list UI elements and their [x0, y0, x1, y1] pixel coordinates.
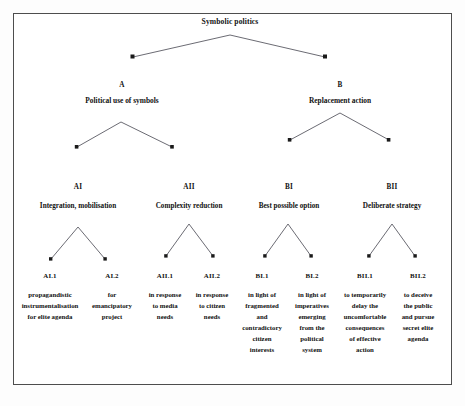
leaf-code-bi2: BI.2 — [305, 272, 318, 279]
node-name-a: Political use of symbols — [85, 97, 158, 105]
leaf-text-aii1: in responseto medianeeds — [149, 289, 182, 322]
node-code-b: B — [338, 82, 343, 90]
node-name-bii: Deliberate strategy — [363, 203, 421, 211]
root-node-label: Symbolic politics — [202, 18, 259, 26]
node-name-ai: Integration, mobilisation — [40, 203, 116, 211]
leaf-code-bii1: BII.1 — [357, 272, 373, 279]
leaf-code-ai1: AI.1 — [43, 272, 56, 279]
leaf-text-bii2: to deceivethe publicand pursuesecret eli… — [402, 289, 435, 344]
node-code-aii: AII — [183, 184, 194, 192]
leaf-text-aii2: in responseto citizenneeds — [196, 289, 229, 322]
node-code-bi: BI — [285, 184, 293, 192]
diagram-root: Symbolic politics A Political use of sym… — [0, 0, 465, 406]
leaf-code-bi1: BI.1 — [255, 272, 268, 279]
leaf-code-ai2: AI.2 — [105, 272, 118, 279]
leaf-code-aii1: AII.1 — [157, 272, 173, 279]
leaf-text-bii1: to temporarilydelay theuncomfortablecons… — [344, 289, 387, 355]
leaf-text-ai1: propagandisticinstrumentalisationfor eli… — [22, 289, 79, 322]
node-code-bii: BII — [387, 184, 398, 192]
leaf-code-aii2: AII.2 — [204, 272, 220, 279]
node-name-bi: Best possible option — [259, 203, 320, 211]
node-name-b: Replacement action — [309, 97, 371, 105]
leaf-text-bi1: in light offragmentedandcontradictorycit… — [242, 289, 282, 355]
leaf-text-bi2: in light ofimperativesemergingfrom thepo… — [295, 289, 329, 355]
leaf-text-ai2: foremancipatoryproject — [92, 289, 132, 322]
node-code-ai: AI — [74, 184, 82, 192]
node-code-a: A — [119, 82, 124, 90]
leaf-code-bii2: BII.2 — [410, 272, 426, 279]
node-name-aii: Complexity reduction — [156, 203, 223, 211]
